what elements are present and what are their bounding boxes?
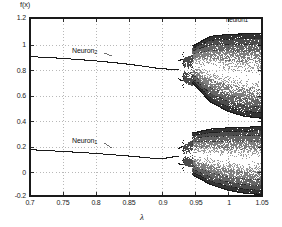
- x-tick-label-0.95: 0.95: [180, 199, 212, 206]
- data-ink-layer: [30, 33, 263, 195]
- y-tick-label--0.2: -0.2: [0, 192, 26, 199]
- x-tick-label-0.8: 0.8: [80, 199, 112, 206]
- y-tick-label-1.2: 1.2: [0, 14, 26, 21]
- x-tick-label-0.75: 0.75: [47, 199, 79, 206]
- annotation-neuron-2-text: Neuron: [72, 47, 94, 54]
- y-tick-label-0.8: 0.8: [0, 67, 26, 74]
- x-tick-label-0.85: 0.85: [113, 199, 145, 206]
- x-tick-label-1.05: 1.05: [246, 199, 278, 206]
- y-axis-label: f(x): [20, 0, 30, 9]
- x-axis-label: λ: [140, 212, 144, 222]
- plot-canvas: [0, 0, 282, 227]
- y-tick-label-0.2: 0.2: [0, 143, 26, 150]
- y-tick-label-0.4: 0.4: [0, 118, 26, 125]
- data-point-cluster: [183, 38, 263, 191]
- y-tick-label-1: 1: [0, 41, 26, 48]
- y-tick-label-0.6: 0.6: [0, 92, 26, 99]
- x-tick-label-1: 1: [213, 199, 245, 206]
- x-tick-label-0.9: 0.9: [147, 199, 179, 206]
- annotation-neuron-1: Neuron1: [72, 137, 97, 145]
- annotation-neuron-1-text: Neuron: [72, 137, 94, 144]
- y-tick-label-0: 0: [0, 169, 26, 176]
- legend-key-label: "neuron1": [224, 16, 250, 23]
- annotation-neuron-1-subscript: 1: [94, 139, 97, 145]
- x-tick-label-0.7: 0.7: [14, 199, 46, 206]
- annotation-leader-lines: [104, 53, 112, 148]
- data-point-cluster: [30, 33, 263, 195]
- bifurcation-diagram-figure: f(x) λ 1.2 1 0.8 0.6 0.4 0.2 0 -0.2 0.7 …: [0, 0, 282, 227]
- annotation-neuron-2-subscript: 2: [94, 49, 97, 55]
- annotation-neuron-2: Neuron2: [72, 47, 97, 55]
